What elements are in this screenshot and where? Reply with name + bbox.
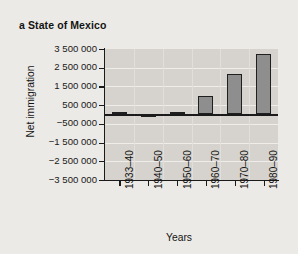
x-tick-mark	[177, 181, 178, 186]
chart-title: a State of Mexico	[19, 19, 106, 31]
x-tick-mark	[264, 181, 265, 186]
x-tick-mark	[235, 181, 236, 186]
x-tick-label: 1960–70	[210, 150, 221, 189]
x-tick-mark	[119, 181, 120, 186]
y-tick-label: −3 500 000	[49, 175, 97, 185]
bar-1960–70	[198, 96, 213, 115]
x-tick-label: 1970–80	[239, 150, 250, 189]
x-tick-label: 1950–60	[182, 150, 193, 189]
y-tick-label: −2 500 000	[49, 156, 97, 166]
y-tick-label: 2 500 000	[54, 62, 97, 72]
x-tick-mark	[148, 181, 149, 186]
y-tick-label: 3 500 000	[54, 44, 97, 54]
y-axis-title: Net immigration	[25, 42, 36, 162]
bar-1970–80	[227, 74, 242, 114]
y-tick-label: 1 500 000	[54, 81, 97, 91]
x-tick-label: 1940–50	[153, 150, 164, 189]
figure-container: a State of Mexico Net immigration 3 500 …	[0, 0, 298, 254]
x-tick-mark	[206, 181, 207, 186]
x-axis-title: Years	[0, 232, 298, 243]
y-axis-line	[104, 48, 105, 181]
x-tick-label: 1980–90	[268, 150, 279, 189]
x-tick-label: 1933–40	[124, 150, 135, 189]
y-tick-label: 500 000	[62, 100, 97, 110]
y-tick-label: −1 500 000	[49, 137, 97, 147]
bar-1980–90	[256, 54, 271, 115]
y-tick-label: −500 000	[57, 118, 97, 128]
zero-baseline	[105, 114, 278, 116]
